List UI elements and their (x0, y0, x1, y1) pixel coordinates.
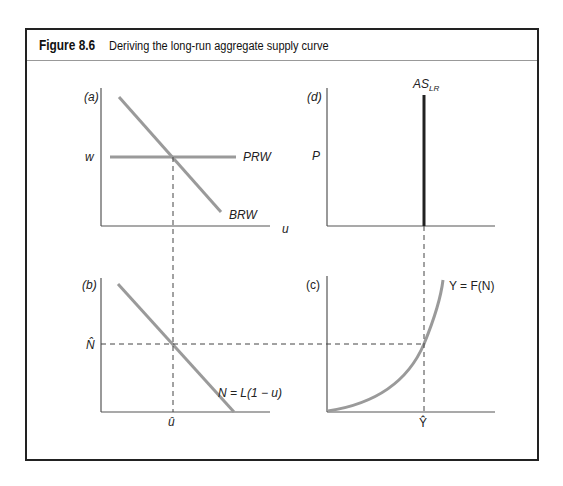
brw-label: BRW (229, 208, 258, 222)
as-label: AS (412, 77, 429, 91)
brw-curve (119, 97, 221, 212)
prw-label: PRW (243, 150, 272, 164)
labor-force-label: N = L(1 − u) (218, 386, 282, 400)
as-subscript: LR (429, 84, 439, 93)
as-lr-label: ASLR (412, 77, 439, 93)
labor-force-curve (118, 284, 234, 412)
panel-b: (b) N̂ û N = L(1 − u) (82, 278, 282, 429)
guide-lines (101, 157, 424, 412)
panel-b-tag: (b) (82, 278, 97, 292)
panel-a-x-label: u (282, 222, 289, 236)
panel-b-y-label: N̂ (86, 337, 95, 352)
production-function-label: Y = F(N) (449, 279, 494, 293)
panel-d-tag: (d) (307, 90, 322, 104)
panel-c: (c) Ŷ Y = F(N) (306, 276, 495, 430)
panel-a-y-label: w (85, 150, 95, 164)
panel-d-y-label: P (312, 149, 320, 163)
panel-d: (d) P ASLR (307, 77, 495, 226)
panel-c-x-label: Ŷ (419, 415, 427, 430)
panel-c-tag: (c) (306, 278, 320, 292)
diagram-canvas: (a) w u PRW BRW (d) P ASLR (b) N̂ û N = … (0, 0, 563, 486)
production-function-curve (328, 280, 443, 411)
panel-b-x-label: û (168, 415, 175, 429)
panel-a-tag: (a) (84, 90, 99, 104)
panel-a: (a) w u PRW BRW (84, 88, 289, 236)
